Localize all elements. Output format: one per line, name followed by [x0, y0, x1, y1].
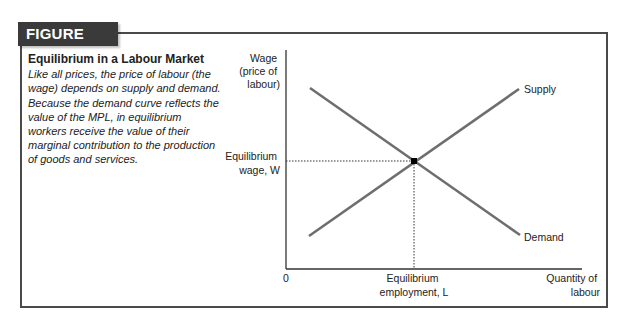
x-axis-label: Quantity of labour — [546, 272, 600, 298]
eq-wage-label: Equilibrium wage, W — [225, 150, 280, 176]
equilibrium-point — [411, 158, 417, 164]
y-axis-label: Wage (price of labour) — [239, 52, 280, 90]
origin-label: 0 — [283, 272, 289, 284]
eq-employment-label: Equilibrium employment, L — [380, 272, 449, 298]
supply-label: Supply — [524, 83, 557, 95]
demand-label: Demand — [524, 231, 564, 243]
labour-market-chart: Wage (price of labour) Equilibrium wage,… — [0, 0, 635, 326]
